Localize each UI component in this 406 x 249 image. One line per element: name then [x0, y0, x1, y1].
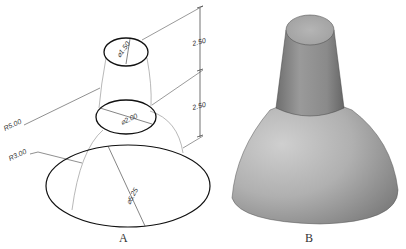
base-ellipse — [46, 145, 210, 227]
figure-b-render: B — [232, 15, 398, 245]
label-inner-radius: R3.00 — [7, 148, 27, 162]
neck-profile-right — [147, 58, 151, 106]
label-outer-radius: R5.00 — [2, 118, 22, 132]
diagram-canvas: ⌀1.50 ⌀2.00 ⌀5.25 R5.00 R3.00 2.50 2.50 … — [0, 0, 406, 249]
label-base-diameter: ⌀5.25 — [125, 187, 140, 206]
base-diameter-line — [108, 146, 145, 226]
neck-top-cap — [286, 15, 334, 45]
r3-leader — [30, 152, 82, 163]
caption-a: A — [119, 231, 128, 245]
extension-line-top — [142, 6, 203, 40]
label-middle-diameter: ⌀2.00 — [119, 112, 138, 126]
extension-line-bottom — [183, 136, 203, 148]
figure-a-drawing: ⌀1.50 ⌀2.00 ⌀5.25 R5.00 R3.00 2.50 2.50 … — [2, 6, 210, 245]
label-lower-height: 2.50 — [190, 101, 206, 112]
neck-profile-left — [99, 58, 106, 108]
label-upper-height: 2.50 — [190, 37, 206, 48]
caption-b: B — [305, 231, 313, 245]
r5-leader — [24, 88, 100, 125]
dome-arc-left — [72, 130, 103, 210]
dome-body — [232, 101, 398, 224]
extension-line-middle — [152, 70, 203, 105]
